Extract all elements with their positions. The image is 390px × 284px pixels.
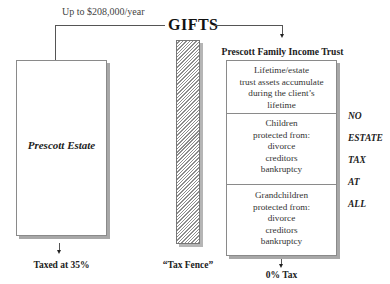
- side-word-no: NO: [348, 111, 362, 121]
- connector-top-left: [55, 25, 165, 26]
- trust-section-grandchildren: Grandchildren protected from: divorce cr…: [227, 190, 336, 248]
- tax-fence-label: “Tax Fence”: [158, 260, 218, 270]
- side-word-tax: TAX: [348, 155, 366, 165]
- side-word-at: AT: [348, 177, 360, 187]
- estate-outcome: Taxed at 35%: [16, 260, 107, 270]
- side-word-all: ALL: [348, 199, 366, 209]
- gift-amount-label: Up to $208,000/year: [62, 6, 145, 17]
- tax-fence-bar: [176, 40, 200, 244]
- estate-box: Prescott Estate: [16, 60, 107, 236]
- trust-divider: [227, 113, 336, 114]
- trust-divider: [227, 184, 336, 185]
- arrow-down-icon: [57, 250, 61, 254]
- gifts-label: GIFTS: [168, 16, 219, 34]
- trust-box: Lifetime/estate trust assets accumulate …: [226, 60, 337, 256]
- side-word-estate: ESTATE: [348, 133, 383, 143]
- trust-section-lifetime: Lifetime/estate trust assets accumulate …: [227, 65, 336, 111]
- connector-top-right: [214, 25, 282, 26]
- arrow-down-icon: [279, 264, 283, 268]
- trust-title: Prescott Family Income Trust: [210, 46, 355, 57]
- arrow-down-icon: [280, 34, 284, 38]
- connector-down-to-estate: [55, 25, 56, 60]
- trust-section-children: Children protected from: divorce credito…: [227, 118, 336, 176]
- estate-title: Prescott Estate: [17, 139, 106, 151]
- trust-outcome: 0% Tax: [226, 270, 337, 280]
